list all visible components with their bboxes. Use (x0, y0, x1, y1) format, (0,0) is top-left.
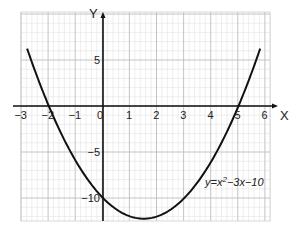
y-axis-arrow-icon (101, 12, 106, 18)
y-tick-label: 5 (94, 54, 100, 66)
x-tick-label: 3 (180, 109, 186, 121)
y-tick-labels: 5−5−10 (81, 54, 100, 204)
x-axis-arrow-icon (272, 104, 278, 109)
y-tick-label: −10 (81, 192, 100, 204)
y-tick-label: −5 (87, 146, 100, 158)
x-tick-label: 6 (262, 109, 268, 121)
x-tick-label: 2 (153, 109, 159, 121)
x-tick-label: 1 (126, 109, 132, 121)
x-tick-label: −3 (14, 109, 27, 121)
x-axis-label: X (280, 108, 289, 123)
parabola-chart: −3−2−10123456 5−5−10 X Y y=x2−3x−10 (0, 0, 299, 232)
y-axis-label: Y (89, 6, 98, 21)
equation-label: y=x2−3x−10 (204, 175, 264, 188)
x-tick-label: 4 (207, 109, 213, 121)
x-tick-label: −1 (69, 109, 82, 121)
x-tick-label: 0 (97, 109, 103, 121)
